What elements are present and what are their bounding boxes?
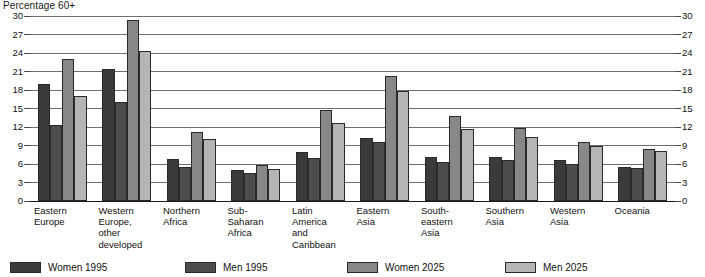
- bar: [256, 165, 268, 201]
- y-tick-mark-right: [675, 16, 681, 17]
- y-tick-mark-right: [675, 90, 681, 91]
- category-label-line: Asia: [486, 216, 548, 227]
- y-axis-tick-label-left: 18: [12, 85, 23, 95]
- y-axis-tick-label-right: 9: [682, 141, 687, 151]
- bar: [385, 76, 397, 201]
- category-label: EasternEurope: [34, 205, 96, 227]
- bar-group: [224, 16, 289, 201]
- legend-swatch: [347, 262, 378, 273]
- y-tick-mark-right: [675, 201, 681, 202]
- legend-label: Men 2025: [543, 262, 587, 273]
- category-label-line: Sub-: [228, 205, 290, 216]
- legend-swatch: [185, 262, 216, 273]
- y-axis-tick-label-right: 3: [682, 178, 687, 188]
- bar: [127, 20, 139, 201]
- category-label-line: Northern: [163, 205, 225, 216]
- category-label-line: Europe: [34, 216, 96, 227]
- legend-label: Women 2025: [385, 262, 444, 273]
- y-tick-mark-right: [675, 145, 681, 146]
- category-label-line: Eastern: [34, 205, 96, 216]
- category-label-line: Latin: [292, 205, 354, 216]
- category-label: SouthernAsia: [486, 205, 548, 227]
- bar: [203, 139, 215, 201]
- bar: [578, 142, 590, 201]
- bar-group: [30, 16, 95, 201]
- legend-item[interactable]: Men 2025: [505, 261, 587, 274]
- category-label-line: Africa: [228, 227, 290, 238]
- bar: [139, 51, 151, 201]
- y-axis-tick-label-left: 30: [12, 11, 23, 21]
- bar: [554, 160, 566, 201]
- y-axis-tick-label-left: 27: [12, 30, 23, 40]
- bar-group: [95, 16, 160, 201]
- category-label: South-easternAsia: [421, 205, 483, 239]
- y-tick-mark-right: [675, 127, 681, 128]
- category-label-line: developed: [99, 239, 161, 250]
- legend-label: Women 1995: [48, 262, 107, 273]
- legend-label: Men 1995: [223, 262, 267, 273]
- legend-item[interactable]: Men 1995: [185, 261, 267, 274]
- y-axis-tick-label-left: 15: [12, 104, 23, 114]
- bar: [643, 149, 655, 201]
- bar: [308, 158, 320, 201]
- y-axis-tick-label-right: 0: [682, 196, 687, 206]
- category-label: WesternAsia: [550, 205, 612, 227]
- legend-item[interactable]: Women 2025: [347, 261, 444, 274]
- y-tick-mark-right: [675, 53, 681, 54]
- category-label-line: Africa: [163, 216, 225, 227]
- y-tick-mark-right: [675, 182, 681, 183]
- plot-area: 003366991212151518182121242427273030: [30, 16, 675, 201]
- category-label-line: Asia: [421, 227, 483, 238]
- category-label-line: eastern: [421, 216, 483, 227]
- y-axis-tick-label-right: 27: [682, 30, 693, 40]
- bar: [655, 151, 667, 201]
- legend-item[interactable]: Women 1995: [10, 261, 107, 274]
- bar: [526, 137, 538, 201]
- bar: [231, 170, 243, 201]
- y-axis-tick-label-left: 24: [12, 48, 23, 58]
- chart-legend: Women 1995Men 1995Women 2025Men 2025: [10, 261, 700, 275]
- category-label-line: other: [99, 227, 161, 238]
- bar: [191, 132, 203, 201]
- bar-group: [288, 16, 353, 201]
- bar: [514, 128, 526, 201]
- y-tick-mark-right: [675, 71, 681, 72]
- chart-root: Percentage 60+ 0033669912121515181821212…: [0, 0, 705, 277]
- y-axis-tick-label-right: 15: [682, 104, 693, 114]
- bar: [397, 91, 409, 201]
- bar: [618, 167, 630, 201]
- bar: [502, 160, 514, 201]
- bar: [244, 173, 256, 201]
- plot-frame: 003366991212151518182121242427273030: [30, 16, 675, 201]
- bar: [268, 169, 280, 201]
- bar: [590, 146, 602, 202]
- category-label-line: Saharan: [228, 216, 290, 227]
- bar-group: [482, 16, 547, 201]
- category-label-line: Oceania: [615, 205, 677, 216]
- y-axis-tick-label-left: 9: [18, 141, 23, 151]
- category-axis: EasternEuropeWesternEurope,otherdevelope…: [30, 205, 675, 255]
- bar: [74, 96, 86, 201]
- category-label-line: Eastern: [357, 205, 419, 216]
- category-label: EasternAsia: [357, 205, 419, 227]
- category-label: Oceania: [615, 205, 677, 216]
- bar: [461, 129, 473, 201]
- bar-group: [417, 16, 482, 201]
- bar: [179, 167, 191, 201]
- y-axis-tick-label-right: 24: [682, 48, 693, 58]
- category-label-line: Asia: [357, 216, 419, 227]
- bar-group: [611, 16, 676, 201]
- bar: [296, 152, 308, 201]
- bar: [167, 159, 179, 201]
- y-axis-tick-label-left: 0: [18, 196, 23, 206]
- category-label-line: Southern: [486, 205, 548, 216]
- bar-group: [353, 16, 418, 201]
- bar: [631, 168, 643, 201]
- y-axis-tick-label-right: 18: [682, 85, 693, 95]
- y-tick-mark-right: [675, 34, 681, 35]
- bar: [489, 157, 501, 201]
- category-label-line: Asia: [550, 216, 612, 227]
- bar: [115, 102, 127, 201]
- category-label-line: America: [292, 216, 354, 227]
- bar: [50, 125, 62, 201]
